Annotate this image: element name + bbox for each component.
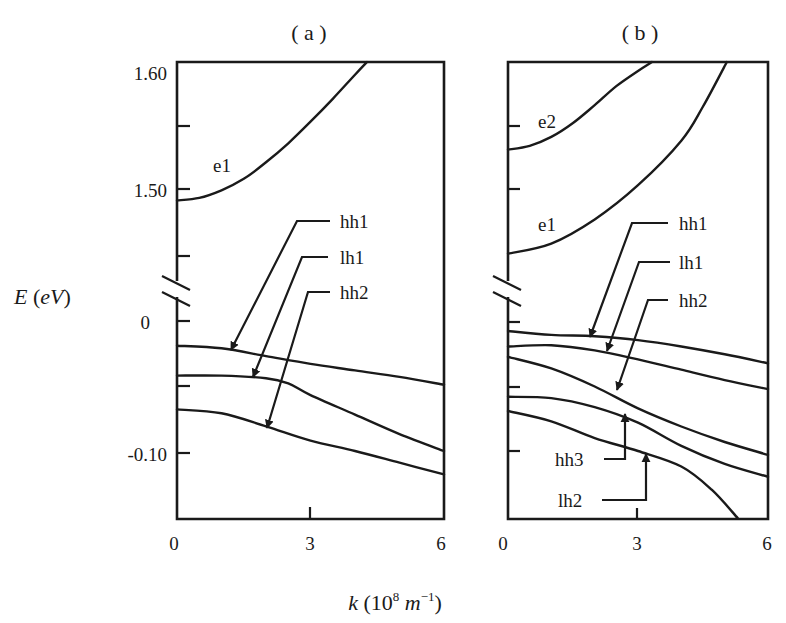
x-tick-label: 6 [436, 533, 446, 554]
label-lh2: lh2 [558, 490, 582, 511]
curve-e2 [508, 62, 652, 150]
y-tick-label: 1.60 [134, 63, 167, 84]
y-tick-label: -0.10 [127, 444, 167, 465]
y-axis-title: E (eV) [13, 284, 71, 309]
x-tick-label: 0 [169, 533, 179, 554]
label-hh1: hh1 [340, 211, 369, 232]
label-lh1: lh1 [340, 247, 364, 268]
leader-hh1 [231, 221, 330, 350]
x-axis-title: k (108 m−1) [348, 589, 442, 615]
curve-lh2 [508, 411, 738, 518]
curve-hh2 [177, 409, 444, 474]
curve-hh1 [177, 346, 444, 385]
band-structure-figure: ( a ) ( b ) E (eV) k (108 m−1) 1.60 1.50… [0, 0, 786, 623]
x-tick-label: 3 [305, 533, 315, 554]
x-tick-label: 3 [632, 533, 642, 554]
x-tick-label: 0 [498, 533, 508, 554]
y-tick-label: 0 [141, 312, 151, 333]
panel-a-frame [177, 62, 444, 519]
leader-hh1 [590, 223, 668, 337]
label-hh3: hh3 [555, 449, 584, 470]
panel-a-title: ( a ) [291, 20, 326, 45]
curve-hh2 [508, 357, 768, 455]
leader-lh1 [253, 257, 328, 377]
label-e2: e2 [538, 111, 556, 132]
leader-hh2 [267, 292, 330, 428]
leader-lh2 [602, 454, 646, 500]
panel-a: 1.60 1.50 0 -0.10 0 3 6 e1 hh1 lh1 hh2 [127, 62, 445, 554]
label-e1: e1 [538, 214, 556, 235]
leader-hh3 [604, 414, 625, 459]
label-hh2: hh2 [340, 282, 369, 303]
curve-e1 [177, 62, 367, 200]
leader-hh2 [617, 300, 668, 390]
x-tick-label: 6 [762, 533, 772, 554]
label-hh2: hh2 [679, 290, 708, 311]
label-hh1: hh1 [679, 213, 708, 234]
label-e1: e1 [213, 155, 231, 176]
label-lh1: lh1 [679, 252, 703, 273]
panel-a-curves [177, 62, 444, 474]
y-tick-label: 1.50 [134, 180, 167, 201]
panel-b: 0 3 6 e2 e1 hh1 lh1 hh2 hh3 lh2 [493, 62, 772, 554]
panel-b-title: ( b ) [622, 20, 659, 45]
panel-a-y-ticks [177, 126, 310, 519]
